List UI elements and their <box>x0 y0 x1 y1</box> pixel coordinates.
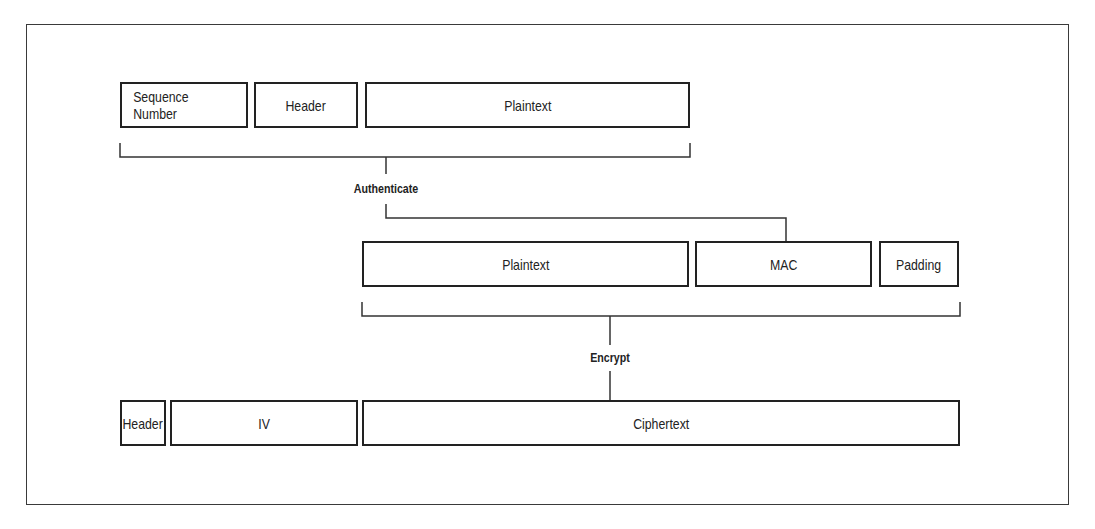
step-authenticate-label: Authenticate <box>354 181 419 196</box>
field-header: Header <box>120 400 166 446</box>
step-encrypt-label: Encrypt <box>590 350 630 365</box>
field-ciphertext: Ciphertext <box>362 400 960 446</box>
field-iv: IV <box>170 400 358 446</box>
field-header: Header <box>254 82 358 128</box>
field-label: Ciphertext <box>633 415 689 432</box>
field-label: Plaintext <box>504 97 551 114</box>
field-label: MAC <box>770 256 797 273</box>
field-label: Header <box>286 97 326 114</box>
field-mac: MAC <box>695 241 872 287</box>
bracket-row1 <box>120 143 690 157</box>
field-label: Sequence Number <box>133 88 235 122</box>
field-label: Plaintext <box>502 256 549 273</box>
field-label: Padding <box>896 256 941 273</box>
connector-authenticate-to-mac <box>386 204 786 242</box>
field-padding: Padding <box>879 241 959 287</box>
bracket-row2 <box>362 302 960 316</box>
field-label: Header <box>123 415 163 432</box>
field-plaintext: Plaintext <box>365 82 690 128</box>
field-label: IV <box>258 415 270 432</box>
field-sequence-number: Sequence Number <box>120 82 248 128</box>
field-plaintext: Plaintext <box>362 241 689 287</box>
